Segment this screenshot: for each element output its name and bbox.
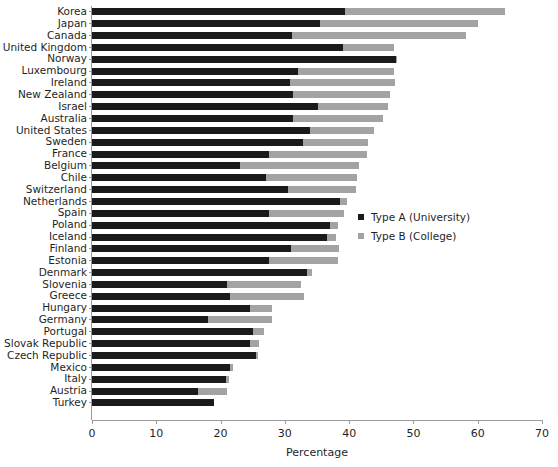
bar-segment-type-a (92, 245, 291, 252)
x-axis-tick (285, 420, 286, 424)
bar-segment-type-b (266, 174, 358, 181)
chart-row: Ireland (92, 77, 542, 89)
bar-segment-type-a (92, 210, 269, 217)
stacked-bar (92, 198, 347, 205)
chart-row: Italy (92, 373, 542, 385)
bar-segment-type-a (92, 103, 318, 110)
x-axis-tick-label: 30 (265, 427, 305, 440)
stacked-bar (92, 174, 358, 181)
chart-row: Netherlands (92, 196, 542, 208)
bar-segment-type-b (198, 388, 227, 395)
stacked-bar (92, 364, 233, 371)
bar-segment-type-a (92, 316, 208, 323)
stacked-bar (92, 103, 388, 110)
stacked-bar (92, 139, 368, 146)
x-axis-tick-label: 70 (522, 427, 558, 440)
stacked-bar (92, 352, 259, 359)
chart-row: Estonia (92, 255, 542, 267)
category-label: Estonia (0, 255, 87, 267)
category-label: Japan (0, 18, 87, 30)
category-label: Denmark (0, 267, 87, 279)
stacked-bar (92, 257, 338, 264)
bar-segment-type-b (291, 245, 339, 252)
bar-segment-type-b (303, 139, 369, 146)
bar-segment-type-b (292, 32, 466, 39)
gray-square-swatch-icon (358, 233, 364, 239)
chart-row: Denmark (92, 267, 542, 279)
bar-segment-type-b (288, 186, 356, 193)
stacked-bar (92, 316, 272, 323)
bar-segment-type-a (92, 305, 250, 312)
stacked-bar (92, 269, 313, 276)
chart-row: United Kingdom (92, 42, 542, 54)
bar-segment-type-a (92, 328, 253, 335)
chart-container: KoreaJapanCanadaUnited KingdomNorwayLuxe… (0, 0, 558, 467)
chart-row: Norway (92, 53, 542, 65)
bar-segment-type-a (92, 151, 269, 158)
x-axis-tick-label: 10 (136, 427, 176, 440)
stacked-bar (92, 127, 374, 134)
bar-segment-type-a (92, 79, 290, 86)
category-label: Chile (0, 172, 87, 184)
chart-row: United States (92, 125, 542, 137)
x-axis-tick-label: 40 (329, 427, 369, 440)
category-label: Canada (0, 30, 87, 42)
stacked-bar (92, 44, 394, 51)
bar-segment-type-b (250, 340, 260, 347)
bar-segment-type-a (92, 91, 293, 98)
x-axis-tick (349, 420, 350, 424)
chart-row: Switzerland (92, 184, 542, 196)
chart-row: France (92, 148, 542, 160)
x-axis-line (92, 420, 542, 421)
stacked-bar (92, 186, 356, 193)
stacked-bar (92, 328, 264, 335)
legend-label-type-b: Type B (College) (371, 230, 456, 242)
chart-row: Germany (92, 314, 542, 326)
chart-row: Hungary (92, 302, 542, 314)
bar-segment-type-b (318, 103, 387, 110)
chart-row: New Zealand (92, 89, 542, 101)
chart-row: Luxembourg (92, 65, 542, 77)
bar-segment-type-a (92, 174, 266, 181)
x-axis-tick-label: 60 (458, 427, 498, 440)
bar-segment-type-a (92, 32, 292, 39)
x-axis-tick (413, 420, 414, 424)
chart-row: Finland (92, 243, 542, 255)
stacked-bar (92, 56, 397, 63)
x-axis-tick (92, 420, 93, 424)
bar-segment-type-b (396, 56, 397, 63)
chart-row: Turkey (92, 397, 542, 409)
dark-square-swatch-icon (358, 214, 364, 220)
bar-segment-type-a (92, 44, 343, 51)
bar-segment-type-b (269, 257, 338, 264)
chart-row: Belgium (92, 160, 542, 172)
bar-segment-type-a (92, 127, 310, 134)
x-axis-tick (542, 420, 543, 424)
bar-segment-type-a (92, 376, 226, 383)
bar-segment-type-a (92, 222, 330, 229)
bar-segment-type-b (310, 127, 374, 134)
bar-segment-type-b (230, 364, 233, 371)
bar-segment-type-b (293, 91, 391, 98)
chart-row: Sweden (92, 136, 542, 148)
stacked-bar (92, 399, 214, 406)
stacked-bar (92, 388, 227, 395)
bar-segment-type-a (92, 8, 345, 15)
legend-item-type-b: Type B (College) (358, 228, 470, 244)
bar-segment-type-a (92, 234, 327, 241)
stacked-bar (92, 68, 394, 75)
bar-segment-type-b (340, 198, 348, 205)
chart-row: Israel (92, 101, 542, 113)
bar-segment-type-b (298, 68, 394, 75)
bar-segment-type-b (226, 376, 229, 383)
stacked-bar (92, 281, 301, 288)
bar-segment-type-a (92, 68, 298, 75)
bar-segment-type-a (92, 257, 269, 264)
bar-segment-type-b (208, 316, 272, 323)
stacked-bar (92, 151, 367, 158)
x-axis-tick-label: 50 (393, 427, 433, 440)
bar-segment-type-b (345, 8, 505, 15)
chart-row: Austria (92, 385, 542, 397)
stacked-bar (92, 305, 272, 312)
chart-row: Australia (92, 113, 542, 125)
